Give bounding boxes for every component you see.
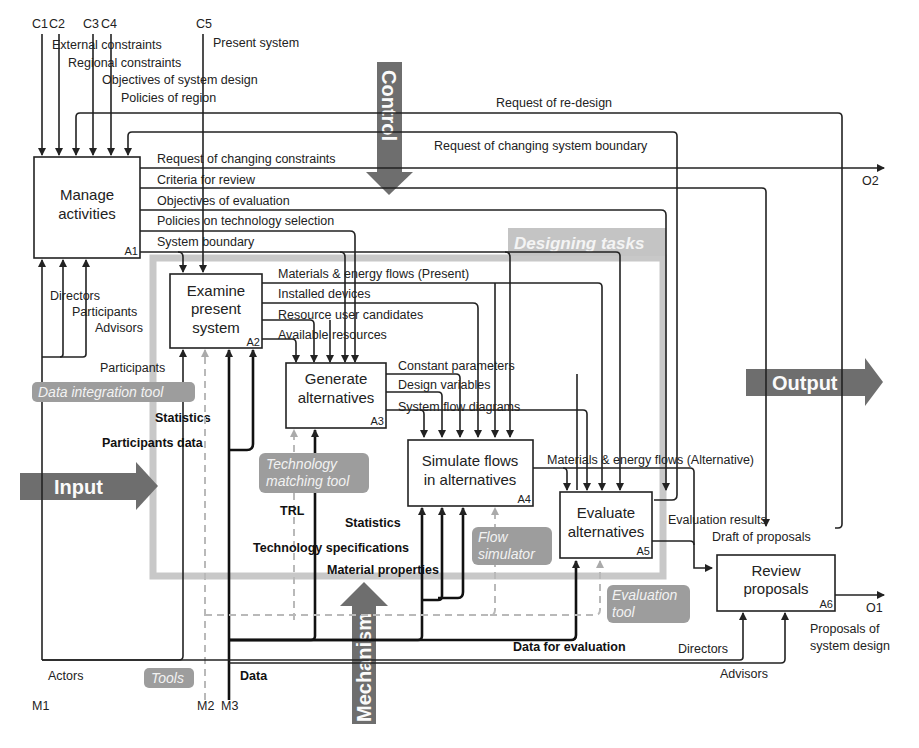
draft-of-proposals-label: Draft of proposals [712, 530, 811, 544]
a3-title-line2: alternatives [298, 389, 375, 406]
a2-participants-label: Participants [100, 361, 165, 375]
data-for-evaluation-label: Data for evaluation [513, 640, 626, 654]
c4-label: C4 [101, 17, 117, 31]
a4-title-line2: in alternatives [424, 471, 517, 488]
a1-mechanism-arrows: Directors Participants Advisors [42, 260, 143, 660]
a6-title-line2: proposals [743, 580, 808, 597]
materials-present-label: Materials & energy flows (Present) [278, 267, 469, 281]
mechanism-big-arrow: Mechanism [340, 582, 388, 724]
tech-matching-line2: matching tool [266, 473, 350, 489]
evaluation-tool-line1: Evaluation [612, 587, 678, 603]
a1-directors-label: Directors [50, 289, 100, 303]
a2-title-line1: Examine [187, 282, 245, 299]
activity-a2[interactable]: Examine present system A2 [170, 274, 262, 348]
constant-parameters-label: Constant parameters [398, 359, 515, 373]
o1-label: O1 [866, 601, 883, 615]
proposals-line1-label: Proposals of [810, 622, 880, 636]
designing-tasks-label: Designing tasks [514, 234, 644, 253]
system-boundary-label: System boundary [157, 235, 255, 249]
actors-label: Actors [48, 669, 83, 683]
evaluation-tool-line2: tool [612, 604, 635, 620]
activity-a6[interactable]: Review proposals A6 [717, 555, 835, 611]
activity-a5[interactable]: Evaluate alternatives A5 [560, 492, 652, 558]
technology-matching-tool-badge: Technology matching tool [259, 453, 369, 493]
resource-user-candidates-label: Resource user candidates [278, 308, 423, 322]
objectives-system-design-label: Objectives of system design [102, 73, 258, 87]
tech-matching-line1: Technology [266, 456, 338, 472]
request-redesign-label: Request of re-design [496, 96, 612, 110]
policies-technology-selection-label: Policies on technology selection [157, 214, 334, 228]
material-properties-label: Material properties [327, 563, 439, 577]
request-changing-boundary-label: Request of changing system boundary [434, 139, 648, 153]
present-system-label: Present system [213, 36, 299, 50]
control-big-arrow: Control [366, 62, 413, 195]
flow-simulator-line2: simulator [478, 546, 536, 562]
evaluation-results-label: Evaluation results [668, 513, 767, 527]
tools-badge: Tools [144, 668, 194, 688]
a6-directors-label: Directors [678, 642, 728, 656]
a5-title-line2: alternatives [568, 523, 645, 540]
a1-id: A1 [125, 245, 138, 257]
trl-label: TRL [280, 504, 305, 518]
a4-statistics-label: Statistics [345, 516, 401, 530]
a6-title-line1: Review [751, 562, 800, 579]
c2-label: C2 [49, 17, 65, 31]
a4-id: A4 [518, 493, 531, 505]
flow-simulator-line1: Flow [478, 529, 508, 545]
a5-output-arrows: Evaluation results Draft of proposals [652, 513, 811, 545]
a2-title-line2: present [191, 300, 242, 317]
data-integration-tool-label: Data integration tool [38, 384, 164, 400]
a6-id: A6 [820, 598, 833, 610]
a2-mechanism-arrows: Participants Statistics Participants dat… [42, 350, 253, 700]
a2-title-line3: system [192, 319, 240, 336]
external-constraints-label: External constraints [52, 38, 162, 52]
input-label: Input [54, 476, 103, 498]
a2-statistics-label: Statistics [155, 411, 211, 425]
input-big-arrow: Input [20, 462, 158, 510]
output-label: Output [772, 372, 838, 394]
objectives-of-evaluation-label: Objectives of evaluation [157, 194, 290, 208]
c1-label: C1 [32, 17, 48, 31]
materials-alternative-label: Materials & energy flows (Alternative) [547, 453, 754, 467]
data-label: Data [240, 669, 268, 683]
a4-title-line1: Simulate flows [422, 452, 519, 469]
c3-label: C3 [83, 17, 99, 31]
proposals-line2-label: system design [810, 639, 890, 653]
design-variables-label: Design variables [398, 378, 490, 392]
data-integration-tool-badge: Data integration tool [32, 382, 195, 402]
installed-devices-label: Installed devices [278, 287, 370, 301]
a1-title-line1: Manage [60, 186, 114, 203]
m1-label: M1 [32, 699, 49, 713]
available-resources-label: Available resources [278, 328, 387, 342]
a3-id: A3 [371, 415, 384, 427]
a5-id: A5 [637, 545, 650, 557]
request-changing-constraints-label: Request of changing constraints [157, 152, 336, 166]
a3-title-line1: Generate [305, 370, 368, 387]
criteria-for-review-label: Criteria for review [157, 173, 256, 187]
activity-a3[interactable]: Generate alternatives A3 [286, 363, 386, 428]
tools-label: Tools [151, 670, 184, 686]
a1-advisors-label: Advisors [95, 321, 143, 335]
a6-advisors-label: Advisors [720, 667, 768, 681]
policies-of-region-label: Policies of region [121, 91, 216, 105]
m3-label: M3 [221, 699, 238, 713]
m2-label: M2 [197, 699, 214, 713]
a2-id: A2 [247, 336, 260, 348]
o2-label: O2 [862, 174, 879, 188]
technology-specifications-label: Technology specifications [253, 541, 409, 555]
evaluation-tool-badge: Evaluation tool [607, 585, 690, 623]
a5-title-line1: Evaluate [577, 504, 635, 521]
regional-constraints-label: Regional constraints [68, 56, 181, 70]
control-label: Control [378, 70, 400, 141]
activity-a4[interactable]: Simulate flows in alternatives A4 [408, 440, 533, 506]
a2-participants-data-label: Participants data [102, 436, 204, 450]
idef0-diagram: Designing tasks Control Input Output Mec… [0, 0, 919, 748]
mechanism-label: Mechanism [353, 613, 375, 722]
a1-participants-label: Participants [72, 305, 137, 319]
flow-simulator-badge: Flow simulator [472, 527, 552, 565]
system-flow-diagrams-label: System flow diagrams [398, 400, 520, 414]
a1-title-line2: activities [58, 205, 116, 222]
activity-a1[interactable]: Manage activities A1 [34, 157, 140, 258]
c5-label: C5 [196, 17, 212, 31]
